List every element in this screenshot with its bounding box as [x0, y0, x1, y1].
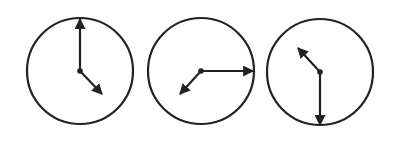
- hour-hand: [80, 71, 102, 94]
- hour-hand: [298, 48, 320, 72]
- clock-1: [27, 18, 133, 124]
- center-pin: [198, 68, 204, 74]
- hour-hand: [180, 71, 201, 94]
- clocks-figure: [0, 0, 393, 143]
- clock-2: [148, 18, 254, 124]
- center-pin: [317, 69, 323, 75]
- center-pin: [77, 68, 83, 74]
- clock-3: [267, 19, 373, 125]
